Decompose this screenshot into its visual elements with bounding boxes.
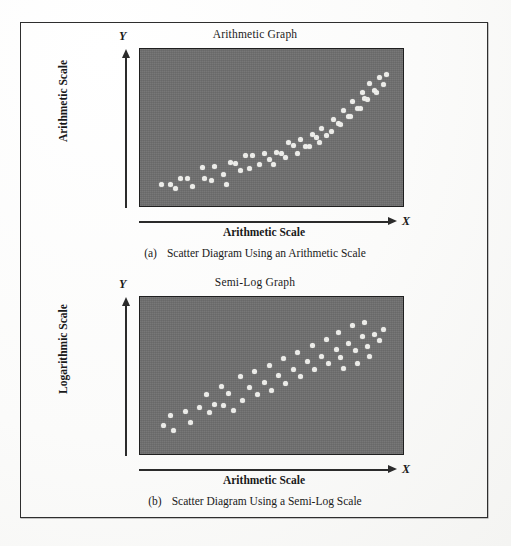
x-axis-label-b: Arithmetic Scale [139,474,389,486]
scatter-point [185,176,190,181]
scatter-point [314,135,319,140]
scatter-point [381,82,386,87]
scatter-point [377,75,382,80]
scatter-point [247,385,252,390]
scatter-point [298,374,303,379]
scatter-point [377,338,382,343]
scatter-point [226,391,231,396]
x-axis-letter-a: X [402,214,410,229]
scatter-point [178,176,183,181]
scatter-point [212,164,217,169]
scatter-point [319,354,324,359]
y-axis-label-a: Arithmetic Scale [57,21,69,181]
scatter-plot-area-b [139,296,404,455]
scatter-point [305,359,310,364]
scatter-point [267,157,272,162]
scatter-point [353,348,358,353]
scatter-point [231,408,236,413]
x-axis-label-a: Arithmetic Scale [139,226,389,238]
scatter-point [295,350,300,355]
scatter-point [262,151,267,156]
scatter-point [381,327,386,332]
scatter-point [209,178,214,183]
scatter-point [307,144,312,149]
scatter-point [338,355,343,360]
scatter-point [267,363,272,368]
scatter-point [197,405,202,410]
scatter-point [190,184,195,189]
scatter-point [360,334,365,339]
y-axis-letter-b: Y [119,277,126,292]
scatter-point [168,413,173,418]
x-axis-line-b [139,469,389,471]
scatter-point [367,81,372,86]
y-axis-letter-a: Y [119,29,126,44]
scatter-point [207,410,212,415]
x-axis-line-a [139,221,389,223]
y-axis-line-b [125,304,127,456]
scatter-point [355,361,360,366]
scatter-point [326,361,331,366]
scatter-point [250,153,255,158]
scatter-point [365,344,370,349]
scatter-point [334,347,339,352]
scatter-point [298,137,303,142]
figure-caption-text-a: Scatter Diagram Using an Arithmetic Scal… [167,247,366,259]
scatter-point [238,374,243,379]
scatter-point [338,122,343,127]
scatter-point [247,166,252,171]
scatter-point [348,114,353,119]
scatter-point [372,332,377,337]
page-background: Arithmetic Graph Y Arithmetic Scale X Ar… [0,0,511,546]
scatter-point [183,409,188,414]
scatter-point [173,186,178,191]
scatter-point [204,392,209,397]
scatter-point [362,320,367,325]
scatter-point [319,126,324,131]
scatter-point [161,423,166,428]
figure-frame: Arithmetic Graph Y Arithmetic Scale X Ar… [20,22,488,518]
scatter-point [255,392,260,397]
scatter-point [212,402,217,407]
scatter-point [252,369,257,374]
scatter-point [240,398,245,403]
y-axis-line-a [125,56,127,208]
scatter-point [200,165,205,170]
scatter-point [295,151,300,156]
x-axis-arrow-icon-a [388,217,397,225]
scatter-point [291,143,296,148]
scatter-point [336,330,341,335]
scatter-point [358,106,363,111]
scatter-point [384,72,389,77]
scatter-point [374,90,379,95]
scatter-point [233,161,238,166]
scatter-point [171,428,176,433]
figure-caption-a: (a)Scatter Diagram Using an Arithmetic S… [21,247,489,259]
x-axis-arrow-icon-b [388,465,397,473]
scatter-point [360,90,365,95]
scatter-point [283,381,288,386]
scatter-point [350,99,355,104]
figure-caption-tag-b: (b) [148,495,161,507]
scatter-point [317,140,322,145]
scatter-point [221,403,226,408]
x-axis-letter-b: X [402,462,410,477]
scatter-point [341,366,346,371]
scatter-point [329,129,334,134]
figure-caption-tag-a: (a) [144,247,157,259]
scatter-point [331,117,336,122]
graph-title-b: Semi-Log Graph [21,276,489,288]
y-axis-label-b: Logarithmic Scale [57,269,69,429]
scatter-point [276,373,281,378]
graph-title-a: Arithmetic Graph [21,28,489,40]
figure-caption-text-b: Scatter Diagram Using a Semi-Log Scale [172,495,362,507]
scatter-point [341,108,346,113]
scatter-point [262,380,267,385]
scatter-point [224,182,229,187]
scatter-point [243,153,248,158]
scatter-point [257,162,262,167]
scatter-plot-area-a [139,48,404,207]
scatter-point [324,133,329,138]
scatter-point [159,182,164,187]
figure-caption-b: (b)Scatter Diagram Using a Semi-Log Scal… [21,495,489,507]
